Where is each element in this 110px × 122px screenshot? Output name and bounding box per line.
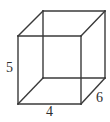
prism-edges [18,11,105,104]
dimension-label-height: 5 [3,61,16,75]
figure-canvas: 5 4 6 [0,0,110,122]
dimension-label-depth: 6 [93,91,106,105]
edge-depth-bottom-left [18,78,43,104]
edge-depth-top-right [81,11,105,36]
dimension-label-width: 4 [42,105,57,119]
edge-depth-top-left [18,11,43,36]
